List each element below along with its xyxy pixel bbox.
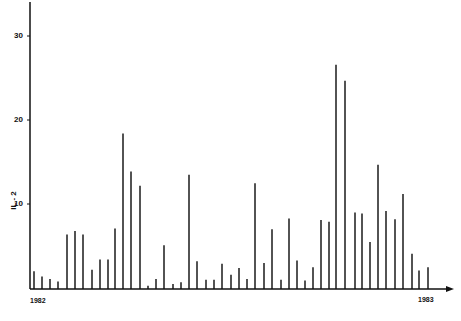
y-axis-label: IL - 2 bbox=[9, 191, 18, 210]
y-tick-label-30: 30 bbox=[14, 31, 23, 40]
x-label-1982: 1982 bbox=[30, 297, 46, 304]
y-tick-label-20: 20 bbox=[14, 115, 23, 124]
x-label-1983: 1983 bbox=[418, 296, 434, 303]
il2-bar-chart bbox=[0, 0, 461, 321]
bars bbox=[34, 65, 428, 289]
x-axis-arrow-icon bbox=[446, 286, 454, 292]
